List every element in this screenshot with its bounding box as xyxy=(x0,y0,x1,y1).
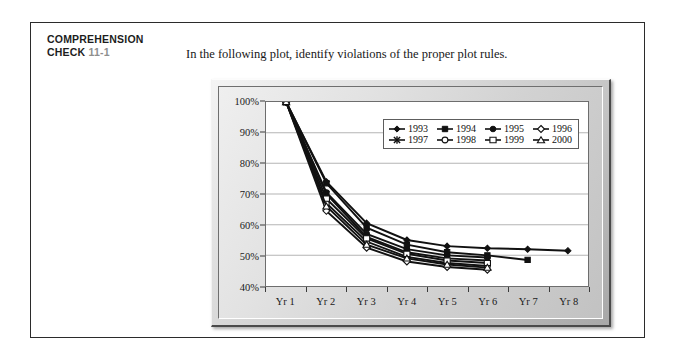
x-tick-mark xyxy=(508,287,509,292)
legend-row-1: 1993199419951996 xyxy=(389,123,572,134)
y-tick-mark xyxy=(260,101,265,102)
prompt-text: In the following plot, identify violatio… xyxy=(186,47,507,62)
y-tick-mark xyxy=(260,225,265,226)
y-tick-label: 50% xyxy=(240,251,259,262)
plot-area-wrapper: 100%90%80%70%60%50%40%Yr 1Yr 2Yr 3Yr 4Yr… xyxy=(265,101,589,287)
y-tick-mark xyxy=(260,132,265,133)
y-tick-mark xyxy=(260,256,265,257)
x-tick-mark xyxy=(387,287,388,292)
legend-marker-filled-circle-icon xyxy=(485,124,501,134)
header-title-line2: CHECK 11-1 xyxy=(47,46,167,59)
x-tick-mark xyxy=(427,287,428,292)
x-tick-label: Yr 6 xyxy=(478,296,497,307)
header-check-number: 11-1 xyxy=(88,46,109,58)
x-tick-label: Yr 4 xyxy=(397,296,416,307)
legend-marker-open-diamond-icon xyxy=(533,124,549,134)
legend-label: 1999 xyxy=(504,134,524,145)
y-tick-label: 90% xyxy=(240,127,259,138)
y-tick-label: 60% xyxy=(240,220,259,231)
y-tick-label: 80% xyxy=(240,158,259,169)
legend-marker-filled-diamond-icon xyxy=(389,124,405,134)
chart-outer-frame: 100%90%80%70%60%50%40%Yr 1Yr 2Yr 3Yr 4Yr… xyxy=(211,79,611,327)
legend-marker-star-cross-icon xyxy=(389,135,405,145)
legend-label: 1998 xyxy=(456,134,476,145)
y-tick-label: 40% xyxy=(240,282,259,293)
legend-item-1994[interactable]: 1994 xyxy=(437,123,476,134)
x-tick-mark xyxy=(589,287,590,292)
legend-item-1997[interactable]: 1997 xyxy=(389,134,428,145)
x-tick-label: Yr 2 xyxy=(316,296,335,307)
legend-item-1993[interactable]: 1993 xyxy=(389,123,428,134)
legend-label: 2000 xyxy=(552,134,572,145)
x-tick-mark xyxy=(549,287,550,292)
x-tick-label: Yr 7 xyxy=(519,296,538,307)
legend-label: 1995 xyxy=(504,123,524,134)
legend-row-2: 1997199819992000 xyxy=(389,134,572,145)
legend-label: 1994 xyxy=(456,123,476,134)
x-tick-mark xyxy=(265,287,266,292)
legend-item-1995[interactable]: 1995 xyxy=(485,123,524,134)
legend-marker-filled-square-icon xyxy=(437,124,453,134)
x-tick-label: Yr 5 xyxy=(438,296,457,307)
y-tick-mark xyxy=(260,194,265,195)
header-check-word: CHECK xyxy=(47,46,85,58)
page-canvas: COMPREHENSION CHECK 11-1 In the followin… xyxy=(0,0,677,361)
legend-label: 1996 xyxy=(552,123,572,134)
x-tick-label: Yr 1 xyxy=(276,296,295,307)
y-tick-mark xyxy=(260,163,265,164)
chart-legend: 1993199419951996 1997199819992000 xyxy=(383,119,579,149)
y-tick-label: 100% xyxy=(235,96,260,107)
figure-panel: COMPREHENSION CHECK 11-1 In the followin… xyxy=(30,22,645,338)
x-tick-label: Yr 8 xyxy=(559,296,578,307)
legend-marker-open-square-icon xyxy=(485,135,501,145)
y-tick-label: 70% xyxy=(240,189,259,200)
legend-marker-open-circle-icon xyxy=(437,135,453,145)
legend-label: 1997 xyxy=(408,134,428,145)
legend-item-1998[interactable]: 1998 xyxy=(437,134,476,145)
x-tick-mark xyxy=(468,287,469,292)
legend-item-1996[interactable]: 1996 xyxy=(533,123,572,134)
comprehension-check-header: COMPREHENSION CHECK 11-1 xyxy=(47,33,167,58)
legend-label: 1993 xyxy=(408,123,428,134)
chart-inner-frame: 100%90%80%70%60%50%40%Yr 1Yr 2Yr 3Yr 4Yr… xyxy=(218,86,603,319)
header-title-line1: COMPREHENSION xyxy=(47,33,167,46)
x-tick-label: Yr 3 xyxy=(357,296,376,307)
x-tick-mark xyxy=(306,287,307,292)
x-tick-mark xyxy=(346,287,347,292)
legend-item-2000[interactable]: 2000 xyxy=(533,134,572,145)
legend-item-1999[interactable]: 1999 xyxy=(485,134,524,145)
legend-marker-open-triangle-icon xyxy=(533,135,549,145)
